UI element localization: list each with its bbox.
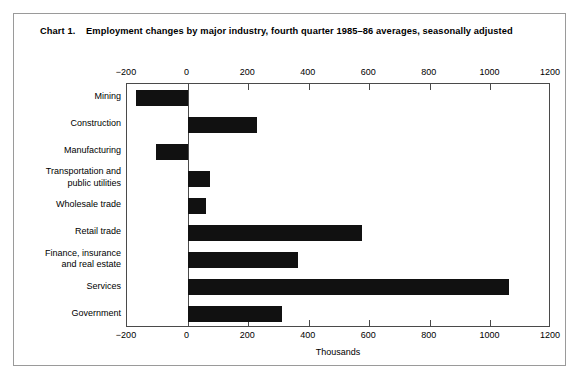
x-axis-tick-bottom (369, 320, 370, 326)
category-label: Transportation andpublic utilities (24, 166, 121, 189)
chart-figure: Chart 1.Employment changes by major indu… (13, 13, 566, 366)
x-axis-tick-label: −200 (116, 330, 136, 340)
plot-area (126, 83, 550, 327)
x-axis-tick-label: 800 (421, 67, 436, 77)
y-axis-category-labels: MiningConstructionManufacturingTransport… (24, 83, 121, 327)
x-axis-tick-top (248, 84, 249, 90)
x-axis-tick-label: 1200 (540, 67, 560, 77)
x-axis-tick-label: 800 (421, 330, 436, 340)
x-axis-tick-label: 1000 (479, 330, 499, 340)
x-axis-tick-label: 200 (240, 330, 255, 340)
x-axis-tick-label: 0 (184, 67, 189, 77)
x-axis-tick-label: −200 (116, 67, 136, 77)
x-axis-label: Thousands (126, 347, 550, 357)
x-axis-tick-label: 400 (300, 67, 315, 77)
bar (188, 198, 207, 214)
bar (188, 306, 283, 322)
x-axis-tick-label: 600 (361, 67, 376, 77)
chart-title-text: Employment changes by major industry, fo… (86, 25, 516, 39)
category-label: Finance, insuranceand real estate (24, 248, 121, 271)
x-axis-tick-label: 1000 (479, 67, 499, 77)
category-label: Government (24, 308, 121, 320)
x-axis-tick-bottom (490, 320, 491, 326)
category-label: Services (24, 281, 121, 293)
x-axis-tick-label: 1200 (540, 330, 560, 340)
bar (188, 117, 257, 133)
x-axis-tick-top (490, 84, 491, 90)
category-label: Mining (24, 91, 121, 103)
bar (188, 279, 510, 295)
x-axis-tick-bottom (309, 320, 310, 326)
category-label: Manufacturing (24, 145, 121, 157)
x-axis-tick-label: 600 (361, 330, 376, 340)
x-axis-tick-bottom (430, 320, 431, 326)
x-axis-tick-top (188, 84, 189, 90)
bar (136, 90, 187, 106)
chart-title: Chart 1.Employment changes by major indu… (40, 25, 540, 39)
bar (188, 252, 299, 268)
category-label: Retail trade (24, 226, 121, 238)
x-axis-tick-top (430, 84, 431, 90)
x-axis-tick-label: 400 (300, 330, 315, 340)
x-axis-tick-label: 0 (184, 330, 189, 340)
bar (188, 171, 211, 187)
category-label: Wholesale trade (24, 199, 121, 211)
x-axis-bottom-tick-labels: −200020040060080010001200 (126, 330, 550, 342)
x-axis-tick-label: 200 (240, 67, 255, 77)
bar (156, 144, 188, 160)
x-axis-tick-top (309, 84, 310, 90)
category-label: Construction (24, 118, 121, 130)
bar (188, 225, 362, 241)
x-axis-tick-top (369, 84, 370, 90)
chart-number: Chart 1. (40, 25, 86, 39)
x-axis-top-tick-labels: −200020040060080010001200 (126, 67, 550, 79)
